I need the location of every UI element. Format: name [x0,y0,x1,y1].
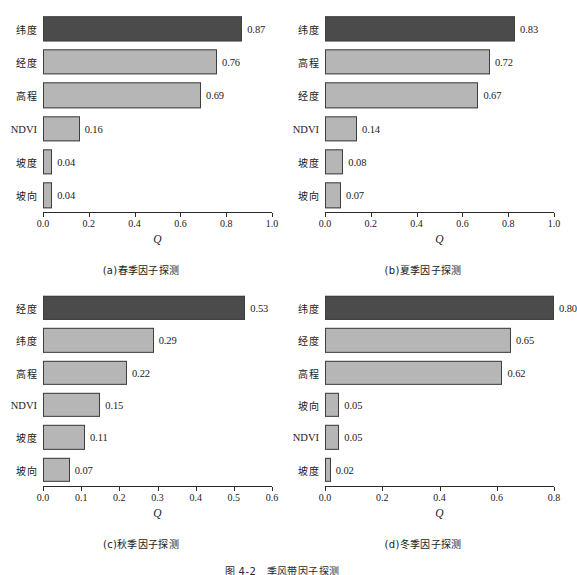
category-label: 纬度 [16,333,37,348]
x-axis-tick [43,487,44,491]
x-axis-tick-label: 0.5 [228,492,241,503]
x-axis-tick [417,213,418,217]
x-axis-tick [234,487,235,491]
category-label: NDVI [11,123,37,134]
x-axis-tick [508,213,509,217]
bar [43,183,52,208]
bar-row: NDVI0.15 [43,389,272,421]
category-label: 高程 [16,88,37,103]
bar-row: 高程0.62 [325,357,554,389]
x-axis-tick-label: 0.8 [548,492,561,503]
bar-value-label: 0.02 [336,464,354,475]
x-axis-tick-label: 0.6 [456,218,469,229]
x-axis-title: Q [435,233,443,245]
panel-caption-d: (d)冬季因子探测 [282,536,564,551]
bar-row: 坡度0.02 [325,454,554,486]
x-axis-tick [554,487,555,491]
bar-value-label: 0.11 [90,432,108,443]
x-axis-tick-label: 0.6 [491,492,504,503]
panel-caption-a: (a)春季因子探测 [0,262,282,277]
bar [325,83,478,108]
x-axis-tick-label: 0.4 [433,492,446,503]
x-axis-tick-label: 0.4 [128,218,141,229]
bar [43,49,217,74]
bar-value-label: 0.04 [57,190,75,201]
x-axis-tick-label: 0.2 [365,218,378,229]
x-axis-tick [43,213,44,217]
bar-value-label: 0.65 [516,335,534,346]
bar-value-label: 0.08 [348,156,366,167]
bar-value-label: 0.72 [495,56,513,67]
x-axis-tick-label: 0.1 [75,492,88,503]
bar-row: 高程0.22 [43,357,272,389]
bar-row: 坡向0.07 [43,454,272,486]
bar [43,393,100,417]
bar [325,116,357,141]
x-axis-tick [196,487,197,491]
x-axis: 0.00.20.40.60.81.0Q [325,212,554,213]
bar [43,328,154,352]
category-label: 纬度 [298,301,319,316]
x-axis-tick-label: 0.2 [83,218,96,229]
bar [325,361,502,385]
bar [43,83,201,108]
bar-value-label: 0.53 [250,303,268,314]
x-axis-tick [497,487,498,491]
x-axis-tick [325,487,326,491]
category-label: NDVI [293,432,319,443]
x-axis-title: Q [153,233,161,245]
x-axis-tick [226,213,227,217]
bar-row: NDVI0.14 [325,112,554,145]
bar-value-label: 0.05 [344,432,362,443]
bar-value-label: 0.62 [507,367,525,378]
bar-value-label: 0.22 [132,367,150,378]
bar [325,328,511,352]
x-axis-tick [158,487,159,491]
bar-row: 纬度0.83 [325,12,554,45]
bar-value-label: 0.80 [559,303,577,314]
x-axis-tick-label: 0.0 [319,218,332,229]
category-label: 坡向 [298,398,319,413]
x-axis-tick-label: 0.0 [37,218,50,229]
bar-row: 经度0.53 [43,292,272,324]
x-axis-tick-label: 1.0 [548,218,561,229]
x-axis-tick [135,213,136,217]
category-label: 纬度 [298,21,319,36]
bar-row: NDVI0.05 [325,421,554,453]
plot-area-c: 经度0.53纬度0.29高程0.22NDVI0.15坡度0.11坡向0.070.… [43,292,272,504]
x-axis: 0.00.20.40.60.81.0Q [43,212,272,213]
x-axis-tick [440,487,441,491]
bar-row: 纬度0.29 [43,324,272,356]
x-axis-tick-label: 0.0 [37,492,50,503]
category-label: NDVI [11,400,37,411]
bar [325,296,554,320]
x-axis: 0.00.10.20.30.40.50.6Q [43,486,272,487]
bar [43,458,70,482]
x-axis-tick [180,213,181,217]
plot-area-d: 纬度0.80经度0.65高程0.62坡向0.05NDVI0.05坡度0.020.… [325,292,554,504]
bar [43,425,85,449]
bar-value-label: 0.14 [362,123,380,134]
category-label: 经度 [16,301,37,316]
panel-caption-c: (c)秋季因子探测 [0,536,282,551]
bar [43,16,242,41]
bar [325,49,490,74]
plot-area-b: 纬度0.83高程0.72经度0.67NDVI0.14坡度0.08坡向0.070.… [325,12,554,230]
category-label: 纬度 [16,21,37,36]
bar [325,393,339,417]
x-axis-tick [272,487,273,491]
category-label: 高程 [16,365,37,380]
bar-row: 坡度0.11 [43,421,272,453]
x-axis-tick-label: 0.4 [189,492,202,503]
category-label: 坡度 [298,154,319,169]
bar-value-label: 0.16 [85,123,103,134]
bar [325,16,515,41]
bar [325,425,339,449]
x-axis-title: Q [153,507,161,519]
bar-row: 经度0.65 [325,324,554,356]
x-axis-tick [81,487,82,491]
category-label: 经度 [298,333,319,348]
category-label: 高程 [298,54,319,69]
bar [325,183,341,208]
x-axis-tick [89,213,90,217]
